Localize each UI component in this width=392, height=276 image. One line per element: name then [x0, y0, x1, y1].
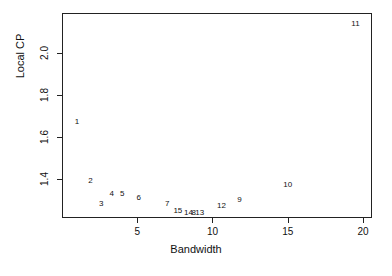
- y-tick-label: 1.6: [39, 130, 50, 144]
- y-tick-label: 2.0: [39, 46, 50, 60]
- data-point-label: 13: [195, 209, 204, 217]
- y-tick-label: 1.4: [39, 172, 50, 186]
- x-tick-mark: [137, 218, 138, 223]
- x-tick-mark: [363, 218, 364, 223]
- data-point-label: 15: [173, 207, 182, 215]
- data-point-label: 7: [165, 200, 169, 208]
- x-axis-title: Bandwidth: [0, 243, 392, 255]
- y-tick-mark: [57, 95, 62, 96]
- data-point-label: 10: [283, 181, 292, 189]
- y-tick-mark: [57, 179, 62, 180]
- data-point-label: 1: [75, 118, 79, 126]
- x-tick-label: 15: [282, 226, 293, 237]
- y-tick-label: 1.8: [39, 88, 50, 102]
- y-tick-mark: [57, 137, 62, 138]
- data-point-label: 4: [109, 190, 113, 198]
- x-tick-label: 5: [134, 226, 140, 237]
- data-point-label: 3: [99, 200, 103, 208]
- data-point-label: 2: [88, 177, 92, 185]
- y-tick-mark: [57, 53, 62, 54]
- data-point-label: 9: [237, 196, 241, 204]
- x-tick-label: 20: [357, 226, 368, 237]
- x-tick-mark: [288, 218, 289, 223]
- x-tick-mark: [212, 218, 213, 223]
- data-point-label: 5: [120, 190, 124, 198]
- scatter-plot-figure: 123456715148131291011 5101520 1.41.61.82…: [0, 0, 392, 276]
- data-point-label: 11: [351, 20, 359, 28]
- x-tick-label: 10: [207, 226, 218, 237]
- plot-area: [62, 13, 372, 218]
- y-axis-title: Local CP: [14, 16, 26, 96]
- data-point-label: 6: [137, 194, 141, 202]
- data-point-label: 12: [217, 202, 226, 210]
